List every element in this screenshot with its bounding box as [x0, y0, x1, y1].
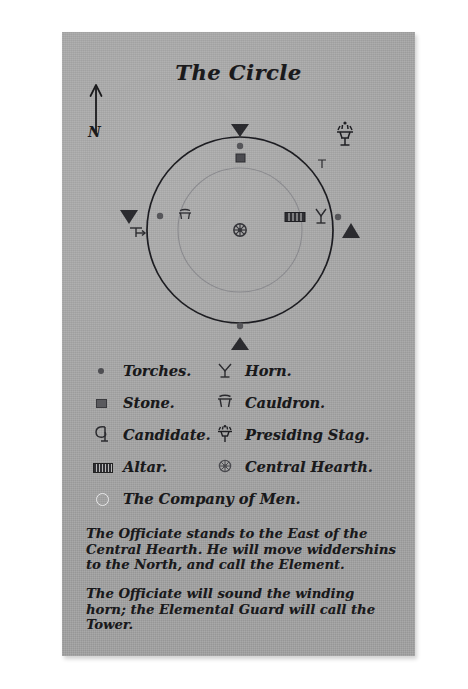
legend-label: Torches.: [123, 362, 191, 379]
legend-label: Stone.: [123, 394, 175, 411]
legend-row: Torches. Horn.: [86, 354, 406, 386]
legend-row: Altar. Central Hearth.: [86, 450, 406, 482]
legend-item-cauldron: Cauldron.: [214, 386, 325, 418]
altar-icon: [92, 456, 114, 476]
legend-item-stone: Stone.: [92, 386, 175, 418]
paper-sheet: The Circle N: [62, 32, 415, 656]
legend-label: Altar.: [123, 458, 167, 475]
legend-item-horn: Horn.: [214, 354, 292, 386]
company-circle-icon: [92, 488, 114, 508]
legend-label: The Company of Men.: [123, 490, 301, 507]
instruction-paragraph-1: The Officiate stands to the East of the …: [86, 526, 398, 573]
hearth-wheel-icon: [214, 456, 236, 476]
legend-item-central-hearth: Central Hearth.: [214, 450, 373, 482]
instruction-paragraph-2: The Officiate will sound the winding hor…: [86, 586, 398, 633]
legend-label: Cauldron.: [245, 394, 325, 411]
legend-item-presiding-stag: Presiding Stag.: [214, 418, 370, 450]
legend-item-candidate: Candidate.: [92, 418, 211, 450]
ritual-circle-diagram: [90, 102, 390, 372]
symbol-legend: Torches. Horn. Stone.: [86, 354, 406, 516]
stag-icon: [214, 424, 236, 444]
legend-label: Candidate.: [123, 426, 211, 443]
legend-item-altar: Altar.: [92, 450, 167, 482]
legend-label: Horn.: [245, 362, 292, 379]
legend-item-torches: Torches.: [92, 354, 191, 386]
stone-icon: [92, 392, 114, 412]
legend-row: The Company of Men.: [86, 482, 406, 516]
legend-row: Stone. Cauldron.: [86, 386, 406, 418]
legend-label: Presiding Stag.: [245, 426, 370, 443]
torch-dot-icon: [92, 360, 114, 380]
legend-row: Candidate. Presiding Stag.: [86, 418, 406, 450]
candidate-icon: [92, 424, 114, 444]
legend-label: Central Hearth.: [245, 458, 373, 475]
cauldron-icon: [214, 392, 236, 412]
legend-item-company-of-men: The Company of Men.: [92, 482, 301, 514]
horn-icon: [214, 360, 236, 380]
